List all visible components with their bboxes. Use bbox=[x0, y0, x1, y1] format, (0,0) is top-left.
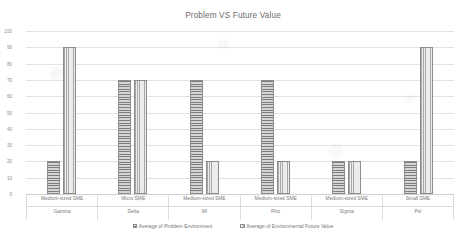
y-axis-tick-label: 90 bbox=[0, 45, 12, 50]
legend-swatch-icon bbox=[133, 224, 138, 229]
bar-group-psi bbox=[383, 31, 454, 194]
y-axis-tick-label: 0 bbox=[0, 192, 12, 197]
category-separator bbox=[383, 206, 453, 207]
category-cell-psi: Small SMEPsi bbox=[382, 194, 454, 220]
category-name-label: MI bbox=[169, 209, 239, 214]
y-axis-tick-label: 70 bbox=[0, 78, 12, 83]
category-separator bbox=[169, 206, 239, 207]
chart-container: Problem VS Future Value 0102030405060708… bbox=[0, 0, 466, 244]
bar-psi-series1[interactable] bbox=[404, 161, 417, 194]
y-axis-tick-label: 30 bbox=[0, 143, 12, 148]
plot-area: 0102030405060708090100 bbox=[26, 31, 454, 194]
category-separator bbox=[312, 206, 382, 207]
y-axis-tick-label: 10 bbox=[0, 176, 12, 181]
bar-group-delta bbox=[97, 31, 168, 194]
bar-group-rho bbox=[240, 31, 311, 194]
bar-sigma-series2[interactable] bbox=[348, 161, 361, 194]
bar-sigma-series1[interactable] bbox=[332, 161, 345, 194]
category-size-label: Micro SME bbox=[98, 196, 168, 201]
category-cell-rho: Medium-sized SMERho bbox=[240, 194, 311, 220]
category-name-label: Sigma bbox=[312, 209, 382, 214]
category-name-label: Delta bbox=[98, 209, 168, 214]
category-cell-sigma: Medium-sized SMESigma bbox=[311, 194, 382, 220]
bar-group-sigma bbox=[311, 31, 382, 194]
category-size-label: Medium-sized SME bbox=[241, 196, 311, 201]
category-cell-delta: Micro SMEDelta bbox=[97, 194, 168, 220]
y-axis-tick-label: 40 bbox=[0, 127, 12, 132]
legend-swatch-icon bbox=[240, 224, 245, 229]
legend-entry-2[interactable]: Average of Environmental Future Value bbox=[240, 223, 333, 229]
bar-group-gamma bbox=[26, 31, 97, 194]
category-size-label: Medium-sized SME bbox=[169, 196, 239, 201]
category-cell-gamma: Medium-sized SMEGamma bbox=[26, 194, 97, 220]
category-separator bbox=[241, 206, 311, 207]
category-name-label: Psi bbox=[383, 209, 453, 214]
chart-title: Problem VS Future Value bbox=[0, 11, 466, 20]
category-separator bbox=[98, 206, 168, 207]
category-size-label: Medium-sized SME bbox=[312, 196, 382, 201]
bar-delta-series1[interactable] bbox=[118, 80, 131, 194]
bar-gamma-series1[interactable] bbox=[47, 161, 60, 194]
legend-entry-1[interactable]: Average of Problem Environment bbox=[133, 223, 213, 229]
y-axis-tick-label: 60 bbox=[0, 94, 12, 99]
chart-legend: Average of Problem EnvironmentAverage of… bbox=[0, 223, 466, 229]
y-axis-tick-label: 20 bbox=[0, 159, 12, 164]
bar-psi-series2[interactable] bbox=[420, 47, 433, 194]
bar-rho-series1[interactable] bbox=[261, 80, 274, 194]
category-name-label: Gamma bbox=[27, 209, 97, 214]
category-name-label: Rho bbox=[241, 209, 311, 214]
bars-layer bbox=[26, 31, 454, 194]
y-axis-tick-label: 80 bbox=[0, 62, 12, 67]
category-separator bbox=[27, 206, 97, 207]
bar-group-mi bbox=[169, 31, 240, 194]
category-size-label: Small SME bbox=[383, 196, 453, 201]
legend-label: Average of Problem Environment bbox=[139, 223, 213, 229]
bar-rho-series2[interactable] bbox=[277, 161, 290, 194]
bar-gamma-series2[interactable] bbox=[63, 47, 76, 194]
category-axis: Medium-sized SMEGammaMicro SMEDeltaMediu… bbox=[26, 194, 454, 220]
bar-mi-series1[interactable] bbox=[190, 80, 203, 194]
bar-delta-series2[interactable] bbox=[134, 80, 147, 194]
category-cell-mi: Medium-sized SMEMI bbox=[168, 194, 239, 220]
legend-label: Average of Environmental Future Value bbox=[246, 223, 333, 229]
y-axis-tick-label: 100 bbox=[0, 29, 12, 34]
y-axis-tick-label: 50 bbox=[0, 111, 12, 116]
bar-mi-series2[interactable] bbox=[206, 161, 219, 194]
category-size-label: Medium-sized SME bbox=[27, 196, 97, 201]
